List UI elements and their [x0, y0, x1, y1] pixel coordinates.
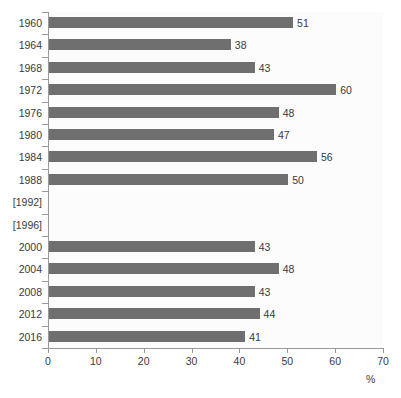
y-axis-tick: [42, 258, 48, 259]
x-axis-tick: [287, 348, 288, 353]
bar-row: 197648: [0, 102, 401, 124]
category-label: 1980: [0, 124, 42, 146]
x-axis-tick: [192, 348, 193, 353]
category-label: 1988: [0, 169, 42, 191]
bar: [49, 62, 255, 73]
y-axis-tick: [42, 57, 48, 58]
category-label: 1964: [0, 34, 42, 56]
bar-value-label: 48: [283, 258, 295, 280]
y-axis-tick: [42, 303, 48, 304]
bar-value-label: 38: [235, 34, 247, 56]
bar-value-label: 43: [259, 236, 271, 258]
y-axis-tick: [42, 326, 48, 327]
bar-row: 200043: [0, 236, 401, 258]
x-axis-tick-label: 30: [177, 355, 207, 367]
x-axis-tick-label: 70: [368, 355, 398, 367]
bar-value-label: 56: [321, 146, 333, 168]
y-axis-tick: [42, 348, 48, 349]
bar: [49, 129, 274, 140]
x-axis-tick-label: 20: [129, 355, 159, 367]
category-label: 2008: [0, 281, 42, 303]
bar-value-label: 43: [259, 57, 271, 79]
x-axis-tick: [239, 348, 240, 353]
category-label: [1996]: [0, 214, 42, 236]
bar: [49, 174, 288, 185]
y-axis-tick: [42, 146, 48, 147]
bar-row: 196438: [0, 34, 401, 56]
y-axis-tick: [42, 102, 48, 103]
category-label: 2016: [0, 326, 42, 348]
y-axis-tick: [42, 281, 48, 282]
bar-row: 200843: [0, 281, 401, 303]
x-axis-tick: [335, 348, 336, 353]
bar: [49, 308, 260, 319]
x-axis-tick-label: 40: [224, 355, 254, 367]
bar-chart: 1960511964381968431972601976481980471984…: [0, 0, 401, 398]
bar: [49, 151, 317, 162]
x-axis-unit-label: %: [366, 373, 375, 385]
bar: [49, 263, 279, 274]
bar: [49, 39, 231, 50]
y-axis-tick: [42, 124, 48, 125]
x-axis-tick: [48, 348, 49, 353]
bar-row: 198850: [0, 169, 401, 191]
x-axis-tick: [96, 348, 97, 353]
bar-value-label: 51: [297, 12, 309, 34]
bar-value-label: 44: [264, 303, 276, 325]
category-label: 2004: [0, 258, 42, 280]
bar: [49, 331, 245, 342]
bar-value-label: 60: [340, 79, 352, 101]
bar-value-label: 43: [259, 281, 271, 303]
category-label: 2000: [0, 236, 42, 258]
category-label: 1960: [0, 12, 42, 34]
bar-row: 198047: [0, 124, 401, 146]
category-label: 1972: [0, 79, 42, 101]
y-axis-tick: [42, 79, 48, 80]
y-axis-tick: [42, 169, 48, 170]
x-axis-tick: [144, 348, 145, 353]
bar-row: 196051: [0, 12, 401, 34]
y-axis-tick: [42, 191, 48, 192]
y-axis-tick: [42, 34, 48, 35]
x-axis-tick-label: 60: [320, 355, 350, 367]
category-label: 1976: [0, 102, 42, 124]
category-label: 2012: [0, 303, 42, 325]
bar: [49, 84, 336, 95]
x-axis-tick: [383, 348, 384, 353]
bar-value-label: 50: [292, 169, 304, 191]
x-axis-tick-label: 10: [81, 355, 111, 367]
bar-row: [1992]: [0, 191, 401, 213]
x-axis-line: [48, 348, 384, 349]
x-axis-tick-label: 0: [33, 355, 63, 367]
bar-row: [1996]: [0, 214, 401, 236]
bar-row: 197260: [0, 79, 401, 101]
category-label: 1984: [0, 146, 42, 168]
bar: [49, 17, 293, 28]
bar-value-label: 41: [249, 326, 261, 348]
bar-row: 201641: [0, 326, 401, 348]
y-axis-tick: [42, 214, 48, 215]
bar-row: 196843: [0, 57, 401, 79]
bar: [49, 107, 279, 118]
bar-row: 201244: [0, 303, 401, 325]
bar-value-label: 48: [283, 102, 295, 124]
bar-row: 200448: [0, 258, 401, 280]
category-label: 1968: [0, 57, 42, 79]
bar-row: 198456: [0, 146, 401, 168]
category-label: [1992]: [0, 191, 42, 213]
y-axis-tick: [42, 12, 48, 13]
bar-value-label: 47: [278, 124, 290, 146]
bar: [49, 241, 255, 252]
y-axis-tick: [42, 236, 48, 237]
x-axis-tick-label: 50: [272, 355, 302, 367]
bar: [49, 286, 255, 297]
